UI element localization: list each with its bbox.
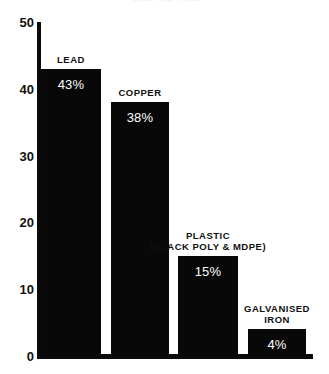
bar-category-label: GALVANISEDIRON xyxy=(244,303,310,325)
cropped-title-remnant: CROPPED TITLE xyxy=(108,0,224,3)
bar-category-label: LEAD xyxy=(57,54,85,65)
bar-value-label: 43% xyxy=(41,78,101,91)
y-tick-20: 20 xyxy=(4,216,34,229)
bar-value-label: 4% xyxy=(248,338,306,351)
bar-category-label-line1: LEAD xyxy=(57,54,85,65)
bar-category-label-line1: GALVANISED xyxy=(244,303,310,314)
y-tick-10: 10 xyxy=(4,283,34,296)
y-tick-40: 40 xyxy=(4,83,34,96)
bar xyxy=(41,69,101,356)
bar-category-label: COPPER xyxy=(118,87,161,98)
y-tick-30: 30 xyxy=(4,150,34,163)
bar-group: 4%GALVANISEDIRON xyxy=(248,22,306,356)
y-tick-50: 50 xyxy=(4,16,34,29)
bar-value-label: 38% xyxy=(111,111,169,124)
plot-area: 43%LEAD38%COPPER15%PLASTIC(BLACK POLY & … xyxy=(41,22,313,356)
y-tick-0: 0 xyxy=(4,350,34,363)
bar-category-label-line1: COPPER xyxy=(118,87,161,98)
y-axis-tick-labels: 50403020100 xyxy=(0,0,34,374)
bar-category-label-line1: PLASTIC xyxy=(186,230,230,241)
bar-group: 43%LEAD xyxy=(41,22,101,356)
bar-category-label-line2: IRON xyxy=(244,314,310,325)
bar-group: 15%PLASTIC(BLACK POLY & MDPE) xyxy=(178,22,238,356)
bar-group: 38%COPPER xyxy=(111,22,169,356)
bar-chart: CROPPED TITLE 50403020100 43%LEAD38%COPP… xyxy=(0,0,329,374)
bar-value-label: 15% xyxy=(178,265,238,278)
